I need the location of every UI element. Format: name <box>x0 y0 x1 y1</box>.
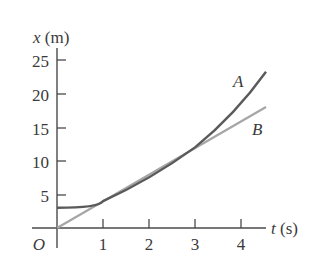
y-axis-unit: (m) <box>41 28 70 47</box>
y-tick-label: 15 <box>32 120 49 139</box>
y-tick-label: 10 <box>32 153 49 172</box>
y-axis-title: x (m) <box>32 28 69 47</box>
x-tick-label: 1 <box>99 235 108 254</box>
x-ticks <box>103 219 241 228</box>
y-ticks <box>57 60 66 195</box>
series-a-curve <box>57 72 266 208</box>
position-time-chart: 25 20 15 10 5 1 2 3 4 O x (m) t (s) A B <box>0 0 313 264</box>
x-axis-title: t (s) <box>271 219 298 238</box>
y-tick-label: 25 <box>32 52 49 71</box>
series-a-label: A <box>232 72 244 91</box>
x-tick-label: 4 <box>237 235 246 254</box>
y-tick-label: 5 <box>41 187 50 206</box>
y-tick-label: 20 <box>32 86 49 105</box>
series-b-label: B <box>252 120 263 139</box>
origin-label: O <box>33 235 45 254</box>
x-tick-label: 3 <box>191 235 200 254</box>
x-tick-label: 2 <box>145 235 154 254</box>
series-b-line <box>57 107 266 228</box>
x-axis-unit: (s) <box>276 219 298 238</box>
